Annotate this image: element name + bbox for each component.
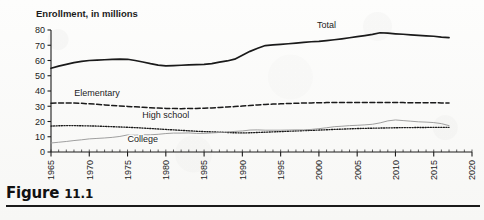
y-tick-label: 70 (35, 41, 45, 51)
y-tick-label: 40 (35, 86, 45, 96)
figure-caption: Figure 11.1 (6, 184, 93, 202)
x-tick-label: 2015 (429, 160, 439, 180)
x-tick-label: 2010 (391, 160, 401, 180)
x-tick-label: 2000 (314, 160, 324, 180)
y-tick-label: 10 (35, 132, 45, 142)
x-tick-label: 2005 (353, 160, 363, 180)
x-tick-label: 1975 (123, 160, 133, 180)
x-tick-label: 1995 (276, 160, 286, 180)
x-tick-label: 1980 (161, 160, 171, 180)
y-tick-label: 50 (35, 71, 45, 81)
series-line-college (51, 120, 449, 143)
series-label-total: Total (317, 20, 336, 30)
y-tick-label: 80 (35, 25, 45, 35)
figure-caption-word: Figure (6, 184, 59, 202)
chart-title: Enrollment, in millions (36, 8, 138, 19)
y-tick-label: 30 (35, 102, 45, 112)
x-tick-label: 1985 (199, 160, 209, 180)
horizontal-rule (6, 205, 480, 207)
series-line-elementary (51, 103, 449, 109)
x-tick-label: 1990 (238, 160, 248, 180)
y-tick-label: 20 (35, 117, 45, 127)
y-tick-label: 0 (40, 147, 45, 157)
series-line-high-school (51, 126, 449, 133)
series-label-high-school: High school (142, 110, 189, 120)
x-tick-label: 1965 (46, 160, 56, 180)
labels-layer: TotalTotalElementaryElementaryHigh schoo… (74, 20, 336, 144)
y-tick-label: 60 (35, 56, 45, 66)
figure-caption-number: 11.1 (64, 187, 93, 201)
series-label-elementary: Elementary (74, 88, 120, 98)
x-tick-label: 2020 (467, 160, 477, 180)
x-tick-label: 1970 (85, 160, 95, 180)
series-line-total (51, 33, 449, 69)
series-label-college: College (128, 134, 159, 144)
